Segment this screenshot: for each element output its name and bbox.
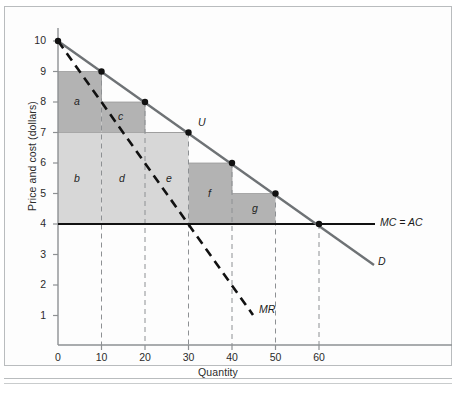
- marker-q60: [316, 221, 322, 227]
- region-c-rect: [102, 102, 146, 133]
- y-tick-10: 10: [20, 34, 46, 46]
- x-axis-title: Quantity: [158, 366, 278, 378]
- region-label-e: e: [166, 172, 172, 184]
- x-tick-40: 40: [219, 351, 245, 363]
- mr-label: MR: [259, 303, 275, 315]
- x-tick-50: 50: [263, 351, 289, 363]
- y-tick-2: 2: [20, 278, 46, 290]
- marker-q0: [55, 38, 61, 44]
- demand-label: D: [378, 255, 386, 267]
- y-tick-1: 1: [20, 309, 46, 321]
- marker-q40: [229, 160, 235, 166]
- marker-q20: [142, 99, 148, 105]
- marker-q50: [272, 190, 278, 196]
- y-tick-4: 4: [20, 217, 46, 229]
- figure-container: 10 9 8 7 6 5 4 3 2 1 0 10 20 30 40 50 60…: [0, 0, 460, 399]
- region-label-b: b: [74, 172, 80, 184]
- mc-ac-label: MC = AC: [380, 216, 423, 228]
- region-label-g: g: [252, 202, 258, 214]
- chart-canvas: [0, 0, 460, 399]
- y-tick-marks: [53, 41, 58, 316]
- point-label-u: U: [198, 116, 206, 128]
- x-tick-20: 20: [132, 351, 158, 363]
- marker-q30-u: [185, 129, 191, 135]
- marker-q10: [98, 68, 104, 74]
- y-tick-9: 9: [20, 65, 46, 77]
- x-tick-marks: [102, 345, 320, 350]
- region-label-c: c: [118, 110, 123, 122]
- y-tick-3: 3: [20, 248, 46, 260]
- x-tick-30: 30: [176, 351, 202, 363]
- region-label-d: d: [119, 172, 125, 184]
- y-axis-title: Price and cost (dollars): [26, 96, 38, 216]
- x-tick-0: 0: [45, 351, 71, 363]
- region-label-a: a: [74, 95, 80, 107]
- x-tick-60: 60: [306, 351, 332, 363]
- x-tick-10: 10: [89, 351, 115, 363]
- region-label-f: f: [208, 187, 211, 199]
- shaded-regions: [58, 72, 276, 225]
